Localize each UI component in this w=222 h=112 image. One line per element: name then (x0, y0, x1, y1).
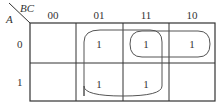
cell-1-01: 1 (76, 78, 122, 90)
cell-0-11: 1 (123, 38, 169, 50)
row-header-1: 1 (17, 76, 23, 88)
column-header-10: 10 (169, 9, 215, 21)
row-variable-label: A (6, 13, 13, 25)
column-header-01: 01 (76, 9, 122, 21)
column-header-11: 11 (123, 9, 169, 21)
row-header-0: 0 (17, 38, 23, 50)
cell-1-11: 1 (123, 78, 169, 90)
cell-0-01: 1 (76, 38, 122, 50)
cell-0-10: 1 (169, 38, 215, 50)
column-header-00: 00 (30, 9, 76, 21)
